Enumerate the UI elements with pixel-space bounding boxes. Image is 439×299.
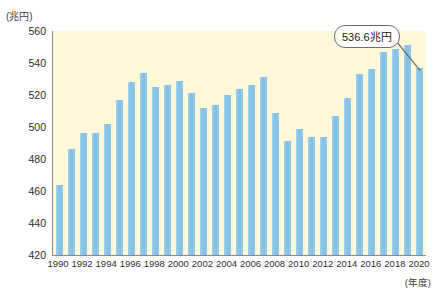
y-axis-tick-label: 440: [0, 217, 52, 229]
bar: [260, 77, 267, 255]
y-axis-unit-label: (兆円): [6, 8, 33, 23]
bar: [332, 116, 339, 255]
x-axis-tick-label: 2016: [360, 258, 381, 269]
bar: [152, 87, 159, 255]
y-axis-tick-text: 460: [28, 185, 52, 197]
y-axis-tick-text: 500: [28, 121, 52, 133]
value-callout: 536.6兆円: [334, 25, 400, 48]
x-axis-tick-label: 2012: [312, 258, 333, 269]
bar: [140, 73, 147, 255]
bar: [380, 52, 387, 255]
bar: [392, 49, 399, 255]
bar: [176, 81, 183, 255]
y-axis-tick-label: 520: [0, 89, 52, 101]
x-axis-tick-label: 2014: [336, 258, 357, 269]
bar: [188, 93, 195, 255]
y-axis-tick-label: 500: [0, 121, 52, 133]
bar: [284, 141, 291, 255]
x-axis-tick-label: 2006: [240, 258, 261, 269]
bar: [416, 68, 423, 255]
x-axis-tick-label: 2018: [384, 258, 405, 269]
y-axis-tick-label: 420: [0, 249, 52, 261]
x-axis-tick-label: 1998: [144, 258, 165, 269]
x-axis-tick-label: 1992: [72, 258, 93, 269]
x-axis-unit-label: (年度): [405, 275, 431, 289]
bar: [368, 69, 375, 255]
bar: [56, 185, 63, 255]
bar: [212, 105, 219, 255]
bar: [248, 85, 255, 255]
y-axis-tick-label: 460: [0, 185, 52, 197]
bar: [92, 133, 99, 255]
bar: [356, 74, 363, 255]
y-axis-tick-text: 560: [28, 25, 52, 37]
bar-chart: (兆円) 420440460480500520540560 1990199219…: [0, 0, 439, 299]
bar: [308, 137, 315, 255]
x-axis-tick-label: 2020: [408, 258, 429, 269]
bar: [344, 98, 351, 255]
y-axis-tick-label: 480: [0, 153, 52, 165]
x-axis-tick-label: 2010: [288, 258, 309, 269]
x-axis-tick-label: 2004: [216, 258, 237, 269]
x-axis-tick-label: 2002: [192, 258, 213, 269]
x-axis-tick-label: 1996: [120, 258, 141, 269]
y-axis-tick-label: 540: [0, 57, 52, 69]
bar-series: [53, 31, 426, 255]
bar: [224, 95, 231, 255]
bar: [236, 89, 243, 255]
bar: [164, 85, 171, 255]
y-axis-tick-text: 540: [28, 57, 52, 69]
x-axis-tick-label: 1990: [47, 258, 68, 269]
bar: [404, 45, 411, 255]
y-axis-tick-label: 560: [0, 25, 52, 37]
y-axis-tick-text: 480: [28, 153, 52, 165]
x-axis-tick-label: 1994: [96, 258, 117, 269]
x-axis-tick-label: 2000: [168, 258, 189, 269]
bar: [128, 82, 135, 255]
bar: [296, 129, 303, 255]
bar: [104, 124, 111, 255]
bar: [200, 108, 207, 255]
bar: [68, 149, 75, 255]
bar: [116, 100, 123, 255]
bar: [80, 133, 87, 255]
y-axis-tick-text: 440: [28, 217, 52, 229]
bar: [320, 137, 327, 255]
plot-area: [52, 31, 426, 256]
x-axis-tick-label: 2008: [264, 258, 285, 269]
y-axis-tick-text: 520: [28, 89, 52, 101]
bar: [272, 113, 279, 255]
